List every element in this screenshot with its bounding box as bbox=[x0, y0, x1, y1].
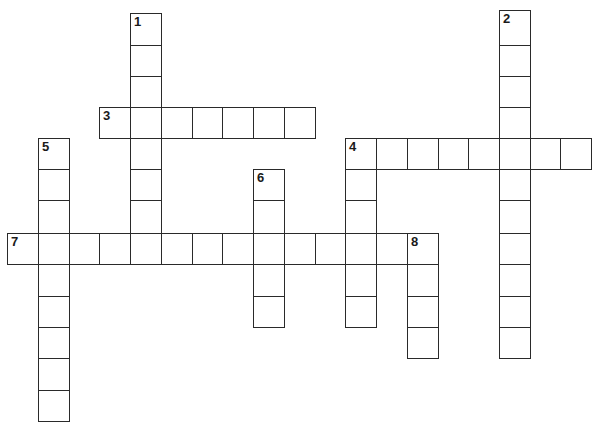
crossword-cell[interactable] bbox=[530, 138, 561, 170]
crossword-cell[interactable] bbox=[407, 138, 439, 170]
crossword-cell[interactable] bbox=[192, 107, 223, 139]
crossword-cell[interactable] bbox=[284, 233, 316, 265]
crossword-cell[interactable] bbox=[130, 45, 162, 77]
crossword-cell[interactable]: 4 bbox=[345, 138, 377, 170]
crossword-cell[interactable] bbox=[345, 169, 377, 201]
crossword-cell[interactable] bbox=[468, 138, 500, 170]
crossword-cell[interactable] bbox=[222, 233, 254, 265]
clue-number: 7 bbox=[11, 235, 18, 249]
crossword-cell[interactable] bbox=[499, 169, 531, 201]
clue-number: 4 bbox=[349, 140, 356, 154]
crossword-cell[interactable] bbox=[130, 138, 162, 170]
crossword-cell[interactable] bbox=[192, 233, 223, 265]
crossword-cell[interactable] bbox=[161, 233, 193, 265]
crossword-cell[interactable] bbox=[99, 233, 131, 265]
crossword-cell[interactable] bbox=[499, 76, 531, 108]
crossword-cell[interactable]: 8 bbox=[407, 233, 439, 265]
crossword-cell[interactable] bbox=[345, 233, 377, 265]
crossword-cell[interactable] bbox=[38, 327, 70, 359]
crossword-cell[interactable] bbox=[560, 138, 592, 170]
crossword-cell[interactable] bbox=[499, 200, 531, 234]
crossword-cell[interactable] bbox=[222, 107, 254, 139]
crossword-cell[interactable]: 3 bbox=[99, 107, 131, 139]
clue-number: 3 bbox=[103, 109, 110, 123]
crossword-cell[interactable] bbox=[253, 107, 285, 139]
clue-number: 2 bbox=[503, 12, 510, 26]
clue-number: 8 bbox=[411, 235, 418, 249]
crossword-cell[interactable] bbox=[130, 200, 162, 234]
crossword-cell[interactable] bbox=[345, 200, 377, 234]
crossword-cell[interactable] bbox=[376, 138, 408, 170]
crossword-cell[interactable]: 6 bbox=[253, 169, 285, 201]
crossword-grid: 12345678 bbox=[0, 0, 593, 424]
crossword-cell[interactable] bbox=[499, 233, 531, 265]
crossword-cell[interactable]: 2 bbox=[499, 10, 531, 46]
crossword-cell[interactable] bbox=[253, 264, 285, 297]
crossword-cell[interactable] bbox=[253, 296, 285, 328]
crossword-cell[interactable] bbox=[130, 76, 162, 108]
crossword-cell[interactable]: 1 bbox=[130, 13, 162, 46]
crossword-cell[interactable] bbox=[253, 233, 285, 265]
crossword-cell[interactable] bbox=[38, 200, 70, 234]
crossword-cell[interactable] bbox=[130, 169, 162, 201]
crossword-cell[interactable] bbox=[38, 264, 70, 297]
crossword-cell[interactable] bbox=[499, 296, 531, 328]
crossword-cell[interactable] bbox=[345, 296, 377, 328]
crossword-cell[interactable] bbox=[499, 327, 531, 359]
crossword-cell[interactable] bbox=[499, 264, 531, 297]
crossword-cell[interactable] bbox=[499, 138, 531, 170]
crossword-cell[interactable] bbox=[253, 200, 285, 234]
crossword-cell[interactable] bbox=[69, 233, 100, 265]
crossword-cell[interactable] bbox=[407, 264, 439, 297]
crossword-cell[interactable] bbox=[161, 107, 193, 139]
crossword-cell[interactable] bbox=[407, 327, 439, 359]
crossword-cell[interactable] bbox=[130, 107, 162, 139]
crossword-cell[interactable] bbox=[130, 233, 162, 265]
crossword-cell[interactable] bbox=[38, 233, 70, 265]
crossword-cell[interactable]: 7 bbox=[7, 233, 39, 265]
crossword-cell[interactable] bbox=[499, 107, 531, 139]
crossword-cell[interactable] bbox=[499, 45, 531, 77]
crossword-cell[interactable] bbox=[315, 233, 346, 265]
crossword-cell[interactable] bbox=[345, 264, 377, 297]
clue-number: 1 bbox=[134, 15, 141, 29]
crossword-cell[interactable] bbox=[38, 296, 70, 328]
clue-number: 5 bbox=[42, 140, 49, 154]
crossword-cell[interactable] bbox=[38, 169, 70, 201]
crossword-cell[interactable] bbox=[38, 358, 70, 391]
clue-number: 6 bbox=[257, 171, 264, 185]
crossword-cell[interactable] bbox=[407, 296, 439, 328]
crossword-cell[interactable] bbox=[438, 138, 469, 170]
crossword-cell[interactable] bbox=[38, 390, 70, 422]
crossword-cell[interactable] bbox=[376, 233, 408, 265]
crossword-cell[interactable]: 5 bbox=[38, 138, 70, 170]
crossword-cell[interactable] bbox=[284, 107, 316, 139]
